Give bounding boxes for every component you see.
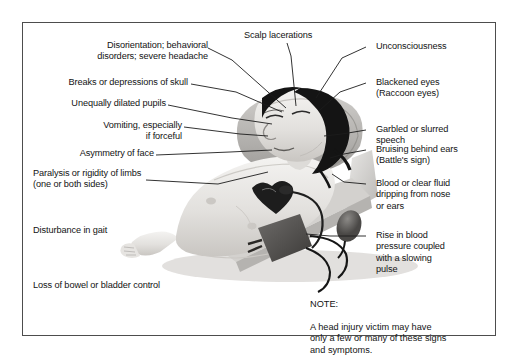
note-block: NOTE: A head injury victim may have only… [310, 287, 470, 359]
label-scalp-lacerations: Scalp lacerations [244, 30, 364, 41]
label-blackened-eyes: Blackened eyes (Raccoon eyes) [376, 77, 486, 100]
label-vomiting: Vomiting, especially if forceful [60, 120, 182, 143]
figure-canvas: Disorientation; behavioral disorders; se… [0, 0, 514, 359]
label-blood-pressure-rise: Rise in blood pressure coupled with a sl… [376, 230, 484, 276]
label-unconsciousness: Unconsciousness [376, 41, 486, 52]
label-paralysis: Paralysis or rigidity of limbs (one or b… [33, 168, 183, 191]
label-battles-sign: Bruising behind ears (Battle's sign) [376, 144, 488, 167]
note-heading: NOTE: [310, 299, 470, 311]
label-skull-breaks: Breaks or depressions of skull [28, 77, 188, 88]
note-body: A head injury victim may have only a few… [310, 322, 470, 357]
label-gait-disturbance: Disturbance in gait [33, 225, 183, 236]
label-disorientation: Disorientation; behavioral disorders; se… [40, 40, 208, 63]
label-facial-asymmetry: Asymmetry of face [46, 148, 154, 159]
label-dilated-pupils: Unequally dilated pupils [28, 98, 166, 109]
label-csf-leak: Blood or clear fluid dripping from nose … [376, 178, 488, 212]
label-bowel-bladder: Loss of bowel or bladder control [33, 280, 223, 291]
